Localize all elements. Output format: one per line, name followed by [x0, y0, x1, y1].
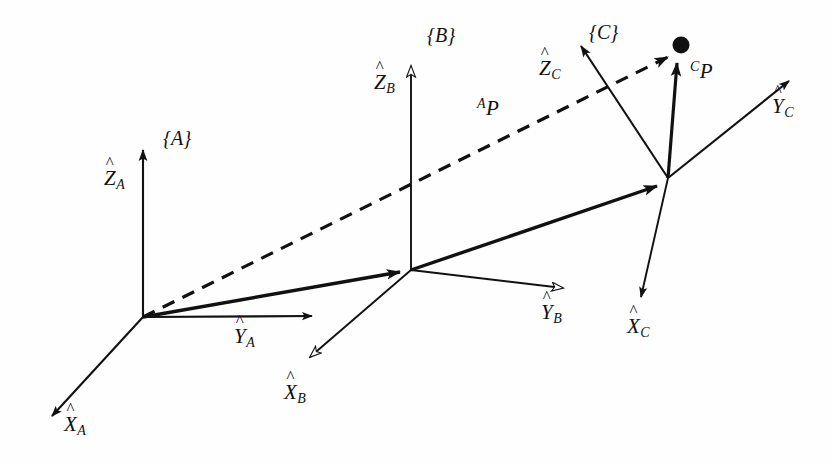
- axis-z-c: [581, 46, 668, 178]
- hat-accent-icon: ^: [236, 312, 244, 329]
- axis-label-z-c-sub: C: [551, 67, 560, 82]
- coordinate-frames-diagram: {A} ^ZA ^YA ^XA {B} ^ZB ^YB ^XB {C} ^ZC …: [0, 0, 832, 464]
- axis-label-x-a-base: ^X: [64, 412, 77, 436]
- axis-label-y-c-sub: C: [784, 105, 793, 120]
- vector-label-c-p-sup: C: [690, 59, 699, 74]
- frame-label-a: {A}: [163, 128, 191, 148]
- hat-accent-icon: ^: [286, 368, 294, 385]
- hat-accent-icon: ^: [774, 82, 782, 99]
- vector-a-to-b: [143, 272, 400, 317]
- vector-c-to-p: [668, 63, 677, 178]
- axis-label-y-c-base: ^Y: [772, 94, 784, 118]
- axis-label-y-c: ^YC: [772, 96, 794, 120]
- frame-c-axes: [581, 46, 789, 297]
- point-p-marker: [673, 37, 690, 54]
- axis-label-z-a-sub: A: [116, 177, 125, 192]
- hat-accent-icon: ^: [106, 154, 114, 171]
- frame-label-c: {C}: [589, 22, 618, 42]
- axis-label-y-a-sub: A: [246, 335, 255, 350]
- axis-label-z-c: ^ZC: [539, 58, 561, 82]
- hat-accent-icon: ^: [541, 44, 549, 61]
- axis-x-b: [310, 270, 411, 357]
- frame-b-axes: [310, 66, 563, 357]
- axis-label-x-a: ^XA: [64, 414, 86, 438]
- hat-accent-icon: ^: [543, 288, 551, 305]
- axis-label-z-b: ^ZB: [374, 72, 395, 96]
- hat-accent-icon: ^: [629, 302, 637, 319]
- axis-label-z-b-base: ^Z: [374, 70, 386, 94]
- axis-label-x-c-sub: C: [640, 325, 649, 340]
- axis-label-x-b-sub: B: [297, 391, 306, 406]
- vector-a-to-p: [143, 57, 668, 317]
- axis-label-y-b-sub: B: [553, 311, 562, 326]
- axis-label-z-a-base: ^Z: [104, 166, 116, 190]
- hat-accent-icon: ^: [66, 400, 74, 417]
- axis-label-y-b: ^YB: [541, 302, 562, 326]
- vector-label-a-p-sup: A: [477, 96, 486, 111]
- axis-label-x-a-sub: A: [77, 423, 86, 438]
- axis-y-c: [668, 81, 789, 178]
- vector-label-a-p: AP: [477, 97, 499, 119]
- axis-label-z-c-base: ^Z: [539, 56, 551, 80]
- axis-x-c: [641, 178, 668, 297]
- axis-label-y-b-base: ^Y: [541, 300, 553, 324]
- axis-label-z-a: ^ZA: [104, 168, 125, 192]
- vector-label-a-p-base: P: [486, 96, 499, 120]
- vector-b-to-c: [411, 186, 657, 270]
- axis-label-x-b-base: ^X: [284, 380, 297, 404]
- frame-a-axes: [52, 150, 312, 416]
- vector-label-c-p-base: P: [700, 59, 713, 83]
- axis-label-y-a: ^YA: [234, 326, 255, 350]
- axis-y-b: [411, 270, 563, 288]
- hat-accent-icon: ^: [376, 58, 384, 75]
- axis-label-z-b-sub: B: [386, 81, 395, 96]
- axis-label-x-c: ^XC: [627, 316, 650, 340]
- axis-y-a: [143, 316, 312, 317]
- translation-vectors: [143, 186, 657, 317]
- axis-label-y-a-base: ^Y: [234, 324, 246, 348]
- vector-label-c-p: CP: [690, 60, 713, 82]
- axis-label-x-c-base: ^X: [627, 314, 640, 338]
- axis-label-x-b: ^XB: [284, 382, 306, 406]
- frame-label-b: {B}: [427, 25, 455, 45]
